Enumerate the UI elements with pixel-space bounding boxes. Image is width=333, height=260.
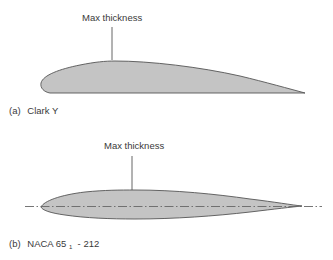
caption-b: (b) NACA 65 1 - 212 [9,238,99,251]
caption-a: (a) Clark Y [9,105,59,116]
caption-b-name: NACA 65 [27,238,66,249]
panel-clark-y: Max thickness (a) Clark Y [9,12,305,116]
caption-b-prefix: (b) [9,238,21,249]
panel-naca: Max thickness (b) NACA 65 1 - 212 [9,140,322,251]
caption-b-designation: - 212 [75,238,99,249]
max-thickness-label-a: Max thickness [82,12,142,23]
caption-b-subscript: 1 [69,244,73,250]
caption-a-name: Clark Y [27,105,59,116]
caption-a-prefix: (a) [9,105,21,116]
clark-y-airfoil [41,61,305,93]
naca-airfoil [41,190,302,219]
airfoil-diagram: Max thickness (a) Clark Y Max thickness … [0,0,333,260]
max-thickness-label-b: Max thickness [104,140,164,151]
